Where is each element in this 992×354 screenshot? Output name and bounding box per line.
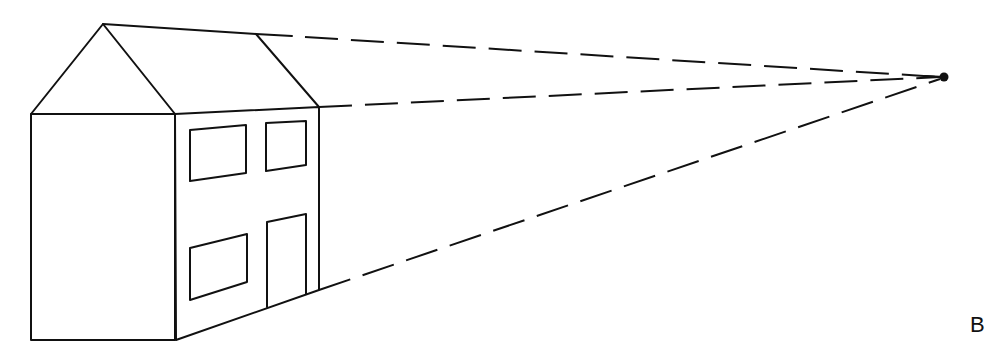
- window-lower-left: [190, 234, 247, 300]
- window-upper-right: [266, 121, 306, 171]
- roof-ridge: [103, 24, 292, 36]
- roof-back-edge: [256, 34, 319, 107]
- gable-roof: [31, 24, 175, 114]
- orthogonal-eave: [319, 77, 940, 107]
- window-upper-left: [190, 125, 246, 181]
- vanishing-point-dot: [940, 73, 949, 82]
- perspective-house-diagram: [0, 0, 992, 354]
- door: [267, 214, 306, 307]
- figure-label: B: [970, 314, 985, 336]
- orthogonal-ground: [319, 79, 940, 290]
- front-wall: [31, 114, 175, 340]
- orthogonal-ridge: [305, 37, 940, 77]
